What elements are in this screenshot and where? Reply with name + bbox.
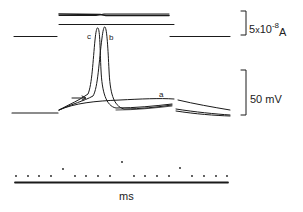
- voltage-traces: [12, 27, 230, 116]
- voltage-scale-label: 50 mV: [250, 94, 282, 105]
- current-scale-bracket: [241, 11, 246, 35]
- time-marker-dots: [15, 161, 228, 177]
- current-traces: [14, 14, 230, 37]
- voltage-baseline-right-2: [176, 111, 230, 116]
- current-scale-label: 5x10-8A: [249, 24, 286, 35]
- trace-b-label: b: [109, 34, 113, 42]
- trace-a-label: a: [159, 91, 163, 99]
- time-unit-label: ms: [119, 191, 134, 202]
- voltage-scale-bracket: [241, 70, 246, 115]
- trace-c-label: c: [87, 33, 91, 41]
